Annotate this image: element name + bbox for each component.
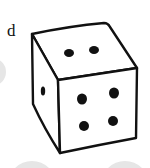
pip-front-4	[108, 116, 118, 126]
background-circle-bottom-left	[8, 161, 56, 168]
die-icon	[32, 23, 137, 153]
pip-left-1	[41, 87, 45, 96]
figure-label: d	[7, 22, 16, 39]
background-circle-bottom-right	[101, 161, 149, 168]
pip-top-2	[89, 46, 99, 54]
pip-top-1	[64, 49, 74, 57]
die-illustration	[0, 0, 150, 168]
pip-front-2	[109, 88, 119, 99]
pip-front-3	[79, 121, 89, 131]
die-front-face	[58, 68, 137, 153]
background-circle-left	[0, 58, 6, 86]
pip-front-1	[77, 94, 87, 105]
